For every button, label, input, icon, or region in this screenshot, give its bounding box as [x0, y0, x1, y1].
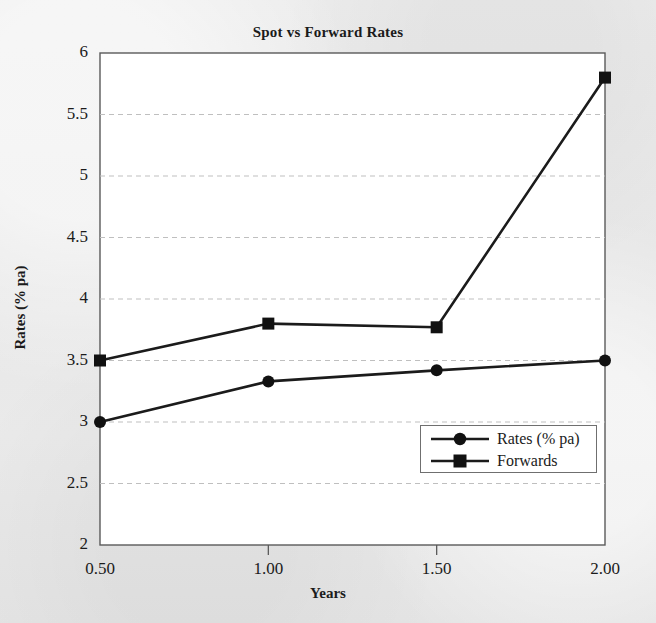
square-data-point [599, 72, 611, 84]
y-tick-label: 4.5 [28, 227, 88, 247]
circle-data-point [262, 375, 274, 387]
y-tick-label: 6 [28, 42, 88, 62]
y-tick-label: 5 [28, 165, 88, 185]
circle-data-point [431, 364, 443, 376]
chart-figure: Spot vs Forward Rates Rates (% pa) Years… [0, 0, 656, 623]
square-data-point [262, 318, 274, 330]
x-tick-label: 2.00 [560, 559, 650, 579]
legend-entry-forwards: Forwards [429, 450, 557, 472]
y-tick-label: 2 [28, 534, 88, 554]
square-data-point [431, 321, 443, 333]
square-data-point [94, 355, 106, 367]
x-tick-label: 0.50 [55, 559, 145, 579]
legend-label-rates: Rates (% pa) [497, 430, 580, 448]
legend-label-forwards: Forwards [497, 452, 557, 470]
square-marker-icon [429, 451, 491, 471]
plot-area [0, 0, 656, 623]
x-tick-label: 1.50 [392, 559, 482, 579]
y-tick-label: 2.5 [28, 473, 88, 493]
x-tick-label: 1.00 [223, 559, 313, 579]
circle-data-point [94, 416, 106, 428]
chart-legend[interactable]: Rates (% pa) Forwards [420, 425, 597, 473]
legend-entry-rates: Rates (% pa) [429, 428, 580, 450]
y-tick-label: 5.5 [28, 104, 88, 124]
y-tick-label: 3.5 [28, 350, 88, 370]
y-tick-label: 4 [28, 288, 88, 308]
y-tick-label: 3 [28, 411, 88, 431]
circle-marker-icon [429, 429, 491, 449]
circle-data-point [599, 355, 611, 367]
